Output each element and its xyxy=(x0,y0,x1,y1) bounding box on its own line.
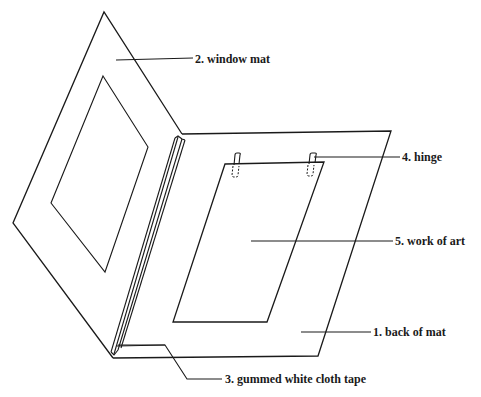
label-window-mat: 2. window mat xyxy=(195,52,270,66)
label-work-of-art-text: 5. work of art xyxy=(395,234,465,248)
label-window-mat-text: 2. window mat xyxy=(195,52,270,66)
label-back-of-mat: 1. back of mat xyxy=(373,325,446,339)
label-cloth-tape-text: 3. gummed white cloth tape xyxy=(225,372,366,386)
leader-cloth-tape xyxy=(118,345,222,379)
back-of-mat xyxy=(113,131,391,358)
label-cloth-tape: 3. gummed white cloth tape xyxy=(225,372,366,386)
label-back-of-mat-text: 1. back of mat xyxy=(373,325,446,339)
leader-window-mat xyxy=(116,58,193,60)
label-hinge: 4. hinge xyxy=(402,150,442,164)
leader-lines xyxy=(116,58,400,379)
label-work-of-art: 5. work of art xyxy=(395,234,465,248)
work-of-art xyxy=(173,162,324,322)
hinge-left xyxy=(232,153,240,177)
label-hinge-text: 4. hinge xyxy=(402,150,442,164)
window-opening xyxy=(51,76,148,272)
window-mat xyxy=(13,12,182,358)
